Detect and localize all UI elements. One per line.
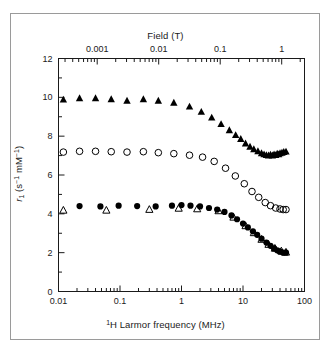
bottom-tick-label: 1: [179, 296, 184, 306]
marker-triangle-filled: [155, 97, 162, 104]
series-open-circles: [60, 148, 289, 213]
marker-triangle-filled: [186, 103, 193, 110]
marker-circle-open: [140, 148, 147, 155]
top-tick-label: 0.1: [214, 44, 227, 54]
marker-circle-open: [76, 148, 83, 155]
left-tick-label: 4: [27, 209, 53, 219]
marker-circle-filled: [134, 203, 140, 209]
marker-triangle-filled: [232, 131, 239, 138]
marker-triangle-filled: [108, 95, 115, 102]
left-tick-label: 10: [27, 92, 53, 102]
marker-triangle-open: [103, 206, 110, 213]
data-series-layer: [60, 94, 290, 255]
marker-circle-open: [232, 173, 239, 180]
marker-triangle-open: [146, 206, 153, 213]
top-axis-ticks: [65, 59, 300, 65]
marker-triangle-filled: [208, 114, 215, 121]
marker-circle-open: [241, 180, 248, 187]
marker-triangle-filled: [198, 108, 205, 115]
bottom-tick-label: 10: [238, 296, 248, 306]
marker-circle-open: [255, 194, 262, 201]
marker-triangle-filled: [226, 126, 233, 133]
marker-triangle-filled: [217, 120, 224, 127]
bottom-tick-label: 100: [297, 296, 312, 306]
marker-triangle-filled: [60, 96, 67, 103]
left-tick-label: 0: [27, 287, 53, 297]
marker-circle-open: [186, 152, 193, 159]
top-tick-label: 0.001: [86, 44, 109, 54]
marker-circle-filled: [206, 205, 212, 211]
bottom-axis-ticks: [59, 286, 305, 292]
bottom-tick-label: 0.1: [114, 296, 127, 306]
marker-triangle-filled: [170, 99, 177, 106]
marker-circle-filled: [97, 203, 103, 209]
marker-circle-filled: [187, 203, 193, 209]
marker-circle-filled: [169, 203, 175, 209]
left-axis-ticks: [59, 59, 65, 292]
marker-circle-open: [211, 158, 218, 165]
marker-triangle-open: [60, 206, 67, 213]
left-tick-label: 2: [27, 248, 53, 258]
marker-circle-open: [171, 150, 178, 157]
left-tick-label: 12: [27, 54, 53, 64]
marker-circle-open: [222, 165, 229, 172]
marker-circle-open: [108, 148, 115, 155]
marker-circle-open: [92, 148, 99, 155]
marker-triangle-filled: [140, 95, 147, 102]
marker-circle-open: [60, 149, 67, 156]
marker-triangle-filled: [76, 94, 83, 101]
marker-circle-filled: [76, 203, 82, 209]
left-tick-label: 8: [27, 131, 53, 141]
top-tick-label: 1: [279, 44, 284, 54]
marker-circle-open: [124, 149, 131, 156]
left-tick-label: 6: [27, 170, 53, 180]
marker-circle-filled: [116, 203, 122, 209]
axis-frame: [59, 59, 305, 292]
marker-circle-filled: [153, 203, 159, 209]
relaxivity-nmrd-figure: Field (T) 1H Larmor frequency (MHz) r1 (…: [0, 0, 331, 353]
marker-circle-open: [249, 188, 256, 195]
bottom-tick-label: 0.01: [50, 296, 68, 306]
marker-triangle-filled: [92, 94, 99, 101]
marker-circle-open: [199, 154, 206, 161]
marker-circle-open: [155, 149, 162, 156]
marker-triangle-filled: [123, 97, 130, 104]
top-tick-label: 0.01: [150, 44, 168, 54]
